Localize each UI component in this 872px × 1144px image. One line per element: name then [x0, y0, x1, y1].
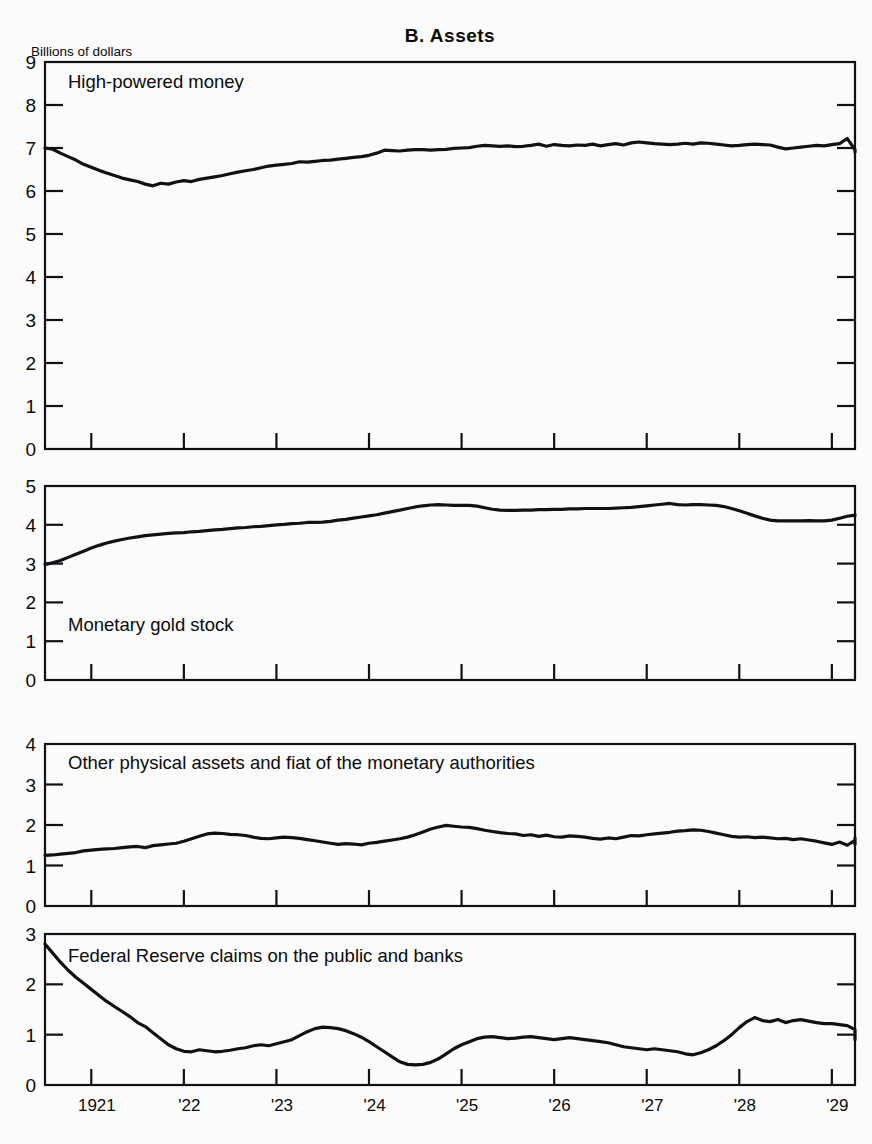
panel-other-physical-assets: 01234Other physical assets and fiat of t… — [25, 734, 855, 917]
y-tick-label: 9 — [25, 52, 36, 73]
data-line-monetary-gold-stock — [45, 503, 855, 564]
panel-frame — [45, 486, 855, 680]
panel-high-powered-money: 0123456789High-powered money — [25, 52, 855, 460]
y-tick-label: 3 — [25, 924, 36, 945]
y-tick-label: 5 — [25, 224, 36, 245]
x-axis-label: '27 — [641, 1096, 663, 1115]
data-line-high-powered-money — [45, 139, 855, 186]
x-axis-label: '28 — [734, 1096, 756, 1115]
chart-svg: B. AssetsBillions of dollars0123456789Hi… — [0, 0, 872, 1144]
x-axis-label: 1921 — [78, 1096, 116, 1115]
y-tick-label: 1 — [25, 856, 36, 877]
y-tick-label: 8 — [25, 95, 36, 116]
y-tick-label: 1 — [25, 1025, 36, 1046]
x-axis-label: '23 — [271, 1096, 293, 1115]
y-tick-label: 3 — [25, 310, 36, 331]
y-tick-label: 1 — [25, 396, 36, 417]
y-tick-label: 0 — [25, 1075, 36, 1096]
y-tick-label: 4 — [25, 734, 36, 755]
y-tick-label: 4 — [25, 515, 36, 536]
y-tick-label: 7 — [25, 138, 36, 159]
y-tick-label: 2 — [25, 815, 36, 836]
series-label: Other physical assets and fiat of the mo… — [68, 752, 535, 773]
x-axis-label: '22 — [178, 1096, 200, 1115]
x-axis-label: '29 — [826, 1096, 848, 1115]
panel-frame — [45, 62, 855, 449]
y-tick-label: 0 — [25, 439, 36, 460]
y-tick-label: 2 — [25, 592, 36, 613]
series-label: Monetary gold stock — [68, 614, 234, 635]
y-tick-label: 0 — [25, 896, 36, 917]
y-tick-label: 5 — [25, 476, 36, 497]
y-tick-label: 2 — [25, 353, 36, 374]
y-tick-label: 1 — [25, 631, 36, 652]
data-line-other-physical-assets — [45, 825, 855, 855]
assets-chart: B. AssetsBillions of dollars0123456789Hi… — [0, 0, 872, 1144]
y-tick-label: 2 — [25, 974, 36, 995]
x-axis-label: '24 — [363, 1096, 385, 1115]
y-tick-label: 0 — [25, 670, 36, 691]
y-axis-unit-label: Billions of dollars — [31, 44, 133, 59]
y-tick-label: 4 — [25, 267, 36, 288]
x-axis-label: '25 — [456, 1096, 478, 1115]
series-label: High-powered money — [68, 71, 245, 92]
series-label: Federal Reserve claims on the public and… — [68, 945, 463, 966]
x-axis-label: '26 — [549, 1096, 571, 1115]
y-tick-label: 6 — [25, 181, 36, 202]
panel-monetary-gold-stock: 012345Monetary gold stock — [25, 476, 855, 691]
chart-title: B. Assets — [405, 25, 495, 46]
y-tick-label: 3 — [25, 775, 36, 796]
y-tick-label: 3 — [25, 554, 36, 575]
panel-federal-reserve-claims: 0123Federal Reserve claims on the public… — [25, 924, 855, 1096]
